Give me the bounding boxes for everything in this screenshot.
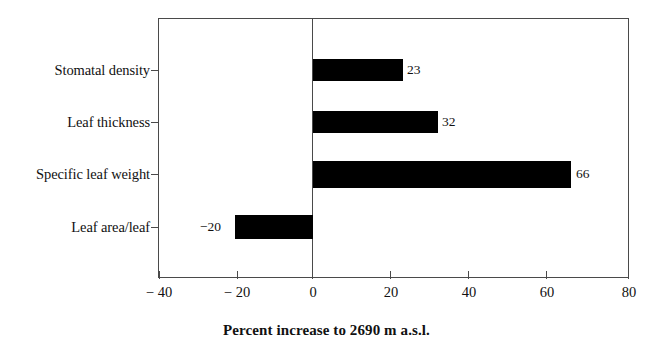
bar-leaf-area-per-leaf: [235, 215, 313, 239]
category-label-leaf-area-per-leaf: Leaf area/leaf: [71, 220, 150, 235]
x-axis-label-60: 60: [517, 285, 577, 300]
category-axis-labels: Stomatal density Leaf thickness Specific…: [0, 0, 150, 353]
y-axis-tick-1: [151, 122, 159, 123]
value-label-stomatal-density: 23: [407, 63, 421, 77]
bar-leaf-thickness: [313, 111, 438, 133]
y-axis-tick-2: [151, 174, 159, 175]
bar-chart-figure: Stomatal density Leaf thickness Specific…: [0, 0, 653, 353]
x-axis-label--40: − 40: [129, 285, 189, 300]
zero-baseline: [312, 18, 313, 279]
value-label-leaf-thickness: 32: [442, 115, 456, 129]
x-axis-tick--40: [159, 271, 160, 279]
bar-specific-leaf-weight: [313, 161, 571, 188]
x-axis-tick-60: [546, 271, 547, 279]
x-axis-label-40: 40: [439, 285, 499, 300]
category-label-specific-leaf-weight: Specific leaf weight: [36, 167, 150, 182]
x-axis-title: Percent increase to 2690 m a.s.l.: [0, 322, 653, 339]
x-axis-tick-40: [468, 271, 469, 279]
x-axis-label-20: 20: [361, 285, 421, 300]
y-axis-tick-0: [151, 70, 159, 71]
x-axis-label--20: − 20: [207, 285, 267, 300]
x-axis-tick-20: [390, 271, 391, 279]
category-label-leaf-thickness: Leaf thickness: [67, 115, 150, 130]
x-axis-label-80: 80: [599, 285, 653, 300]
plot-area: [158, 18, 629, 278]
x-axis-label-0: 0: [283, 285, 343, 300]
value-label-leaf-area-per-leaf: −20: [200, 220, 221, 234]
x-axis-tick-0: [312, 271, 313, 279]
category-label-stomatal-density: Stomatal density: [55, 63, 150, 78]
x-axis-tick--20: [237, 271, 238, 279]
y-axis-tick-3: [151, 227, 159, 228]
bar-stomatal-density: [313, 59, 403, 81]
value-label-specific-leaf-weight: 66: [576, 167, 590, 181]
x-axis-tick-80: [628, 271, 629, 279]
